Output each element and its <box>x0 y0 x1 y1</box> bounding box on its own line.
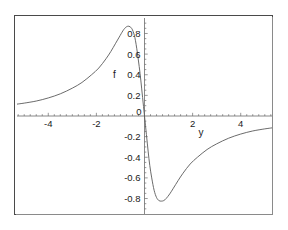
x-tick-label: -4 <box>44 118 52 129</box>
plot-area: -4-2024 0.80.60.40.2-0.2-0.4-0.6-0.8 f y <box>15 16 274 216</box>
y-tick-label: -0.6 <box>124 172 140 183</box>
function-plot: -4-2024 0.80.60.40.2-0.2-0.4-0.6-0.8 f y <box>15 16 274 216</box>
plot-frame: -4-2024 0.80.60.40.2-0.2-0.4-0.6-0.8 f y <box>14 15 273 215</box>
y-tick-label: 0.4 <box>127 69 140 80</box>
x-tick-label: 0 <box>136 106 141 117</box>
y-tick-label: -0.2 <box>124 131 140 142</box>
x-axis-label: y <box>199 127 204 138</box>
y-tick-label: -0.8 <box>124 193 140 204</box>
x-tick-label: 2 <box>190 118 195 129</box>
x-tick-label: -2 <box>92 118 100 129</box>
screenshot-root: -4-2024 0.80.60.40.2-0.2-0.4-0.6-0.8 f y <box>0 0 288 230</box>
y-tick-label: 0.8 <box>127 28 140 39</box>
y-tick-label: -0.4 <box>124 152 140 163</box>
x-tick-label: 4 <box>238 118 243 129</box>
y-tick-label: 0.6 <box>127 49 140 60</box>
y-axis-label: f <box>113 69 116 80</box>
y-tick-label: 0.2 <box>127 90 140 101</box>
